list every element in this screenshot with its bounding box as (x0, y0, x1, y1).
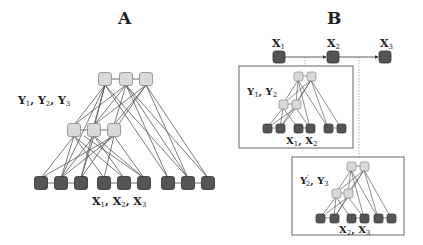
diagram-canvas: A (0, 0, 423, 245)
hidden-node (99, 73, 112, 86)
chain-node-x2 (327, 51, 339, 63)
hidden-node (140, 73, 153, 86)
chain-node-x1 (273, 51, 285, 63)
panel-a-title: A (117, 8, 132, 28)
observed-node (98, 177, 111, 190)
observed-node (162, 177, 175, 190)
hidden-node (68, 124, 81, 137)
panel-a-hidden-label: Y1, Y2, Y3 (17, 94, 70, 108)
chain-label-x2: X2 (327, 37, 340, 51)
panel-a: A (17, 8, 215, 209)
chain-label-x3: X3 (380, 37, 393, 51)
panel-b: B X1 X2 X3 (239, 8, 404, 237)
observed-node (118, 177, 131, 190)
subnet-box-2: Y′2, Y3 X2, X3 (292, 157, 404, 237)
hidden-node (88, 124, 101, 137)
chain-label-x1: X1 (272, 37, 285, 51)
hidden-node (108, 124, 121, 137)
observed-node (182, 177, 195, 190)
chain-node-x3 (379, 51, 391, 63)
panel-a-edges (41, 85, 208, 178)
observed-node (202, 177, 215, 190)
observed-node (55, 177, 68, 190)
observed-node (35, 177, 48, 190)
subnet-box-1: Y1, Y2 X1, X2 (239, 66, 353, 148)
hidden-node (120, 73, 133, 86)
panel-a-observed-nodes (35, 177, 215, 190)
observed-node (138, 177, 151, 190)
panel-b-title: B (327, 8, 341, 28)
panel-a-observed-label: X1, X2, X3 (92, 195, 146, 209)
observed-node (75, 177, 88, 190)
